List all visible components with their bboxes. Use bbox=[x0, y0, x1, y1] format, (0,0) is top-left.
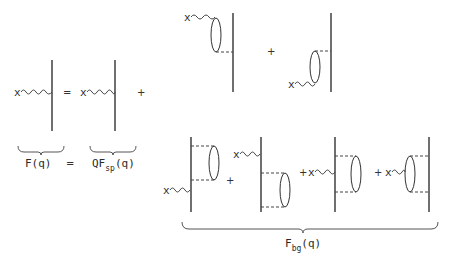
photon-line bbox=[21, 90, 52, 94]
brace-bg bbox=[182, 222, 438, 233]
external-vertex-marker: x bbox=[14, 86, 21, 99]
bubble-loop bbox=[310, 51, 320, 83]
equals-sign: = bbox=[66, 158, 74, 169]
brace-sp bbox=[90, 146, 136, 155]
photon-line bbox=[240, 152, 260, 156]
bubble-loop bbox=[351, 156, 361, 192]
bubble-loop bbox=[211, 18, 221, 52]
external-vertex-marker: x bbox=[233, 148, 240, 161]
diagram-bg-top-1: x bbox=[184, 11, 233, 92]
bubble-loop bbox=[405, 156, 415, 192]
bubble-loop bbox=[209, 146, 219, 180]
label-total-form-factor: F(q) bbox=[25, 157, 52, 170]
diagram-bg-bottom-1: x bbox=[163, 137, 219, 212]
external-vertex-marker: x bbox=[308, 166, 315, 179]
photon-line bbox=[87, 90, 115, 94]
plus-sign: + bbox=[299, 167, 307, 178]
bubble-loop bbox=[280, 173, 290, 207]
diagram-bg-top-2: x bbox=[288, 13, 331, 92]
plus-sign: + bbox=[374, 167, 382, 178]
diagram-bg-bottom-3: x bbox=[308, 137, 361, 212]
diagram-bg-bottom-2: x bbox=[233, 137, 290, 212]
diagram-bg-bottom-4: x bbox=[385, 137, 429, 212]
photon-line bbox=[392, 170, 405, 174]
photon-line bbox=[295, 82, 315, 86]
plus-sign: + bbox=[137, 87, 145, 98]
photon-line bbox=[315, 170, 335, 174]
label-sp-form-factor: QFsp(q) bbox=[92, 157, 135, 173]
brace-lhs bbox=[18, 146, 64, 155]
diagram-full-vertex: x bbox=[14, 60, 52, 131]
external-vertex-marker: x bbox=[385, 166, 392, 179]
diagram-single-particle: x bbox=[80, 60, 115, 131]
photon-line bbox=[170, 188, 190, 192]
external-vertex-marker: x bbox=[163, 184, 170, 197]
plus-sign: + bbox=[226, 175, 234, 186]
label-bg-form-factor: Fbg(q) bbox=[285, 237, 321, 253]
external-vertex-marker: x bbox=[184, 11, 191, 24]
external-vertex-marker: x bbox=[80, 86, 87, 99]
photon-line bbox=[191, 15, 215, 19]
equals-sign: = bbox=[63, 87, 71, 98]
plus-sign: + bbox=[267, 46, 275, 57]
external-vertex-marker: x bbox=[288, 78, 295, 91]
feynman-diagram-equation: x = x + x + x F(q) = QFsp(q) x + bbox=[0, 0, 450, 265]
